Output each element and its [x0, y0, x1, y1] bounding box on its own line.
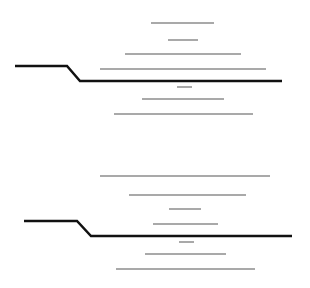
line-diagram	[0, 0, 310, 288]
lower-panel	[24, 176, 292, 269]
diagram-canvas	[0, 0, 310, 288]
upper-panel	[15, 23, 282, 114]
